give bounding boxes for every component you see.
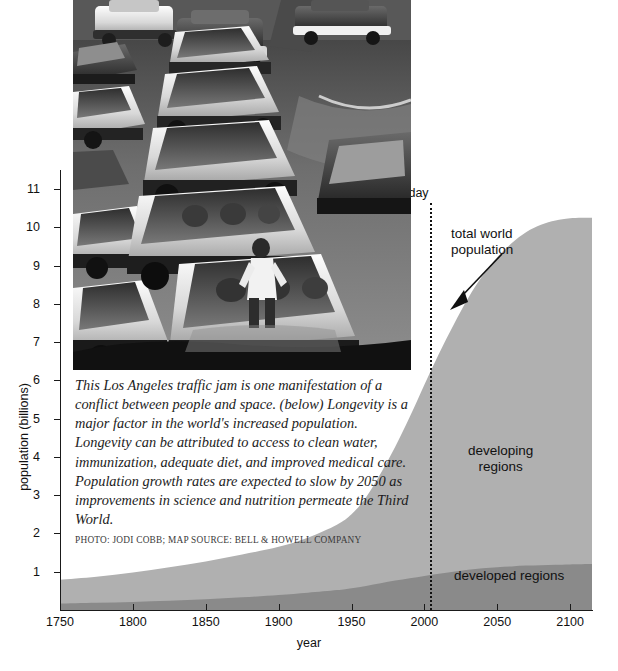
y-tick-label-1: 1 <box>0 566 40 579</box>
y-tick-6 <box>54 380 61 381</box>
x-tick-label-2000: 2000 <box>394 616 454 629</box>
x-tick-1850 <box>206 604 207 611</box>
y-tick-7 <box>54 342 61 343</box>
x-axis-line <box>60 610 593 611</box>
y-tick-11 <box>54 189 61 190</box>
x-tick-1950 <box>352 604 353 611</box>
y-tick-label-9: 9 <box>0 260 40 273</box>
traffic-jam-photo <box>73 0 411 370</box>
x-tick-1800 <box>133 604 134 611</box>
y-axis-title: population (billions) <box>17 367 31 507</box>
y-tick-9 <box>54 266 61 267</box>
y-tick-label-2: 2 <box>0 527 40 540</box>
y-tick-1 <box>54 572 61 573</box>
x-tick-2100 <box>570 604 571 611</box>
x-tick-1750 <box>60 604 61 611</box>
x-tick-1900 <box>279 604 280 611</box>
y-tick-5 <box>54 419 61 420</box>
y-tick-label-11: 11 <box>0 183 40 196</box>
x-tick-label-2100: 2100 <box>540 616 600 629</box>
y-tick-label-10: 10 <box>0 221 40 234</box>
photo-caption-text: This Los Angeles traffic jam is one mani… <box>75 376 411 529</box>
x-tick-label-1800: 1800 <box>103 616 163 629</box>
developed-regions-label: developed regions <box>454 568 564 583</box>
photo-caption-block: This Los Angeles traffic jam is one mani… <box>75 376 411 545</box>
x-tick-label-1850: 1850 <box>176 616 236 629</box>
x-tick-label-1950: 1950 <box>322 616 382 629</box>
x-tick-2050 <box>497 604 498 611</box>
y-tick-8 <box>54 304 61 305</box>
y-tick-label-8: 8 <box>0 298 40 311</box>
today-marker-line <box>430 203 432 610</box>
figure-root: 1234567891011 17501800185019001950200020… <box>0 0 618 671</box>
y-tick-4 <box>54 457 61 458</box>
x-tick-label-1750: 1750 <box>30 616 90 629</box>
y-tick-10 <box>54 227 61 228</box>
developing-regions-label-line1: developing <box>468 443 533 459</box>
y-tick-3 <box>54 495 61 496</box>
developing-regions-label: developing regions <box>468 443 533 474</box>
traffic-jam-photo-image <box>73 0 411 370</box>
y-tick-2 <box>54 533 61 534</box>
total-world-population-label-line1: total world <box>451 226 513 242</box>
x-tick-label-1900: 1900 <box>249 616 309 629</box>
total-world-population-arrow-icon <box>440 252 510 312</box>
y-tick-label-7: 7 <box>0 336 40 349</box>
developing-regions-label-line2: regions <box>468 459 533 475</box>
x-axis-title: year <box>0 636 618 650</box>
photo-credit-line: PHOTO: JODI COBB; MAP SOURCE: BELL & HOW… <box>75 535 411 545</box>
y-axis-line <box>60 170 61 611</box>
x-tick-label-2050: 2050 <box>467 616 527 629</box>
x-tick-2000 <box>424 604 425 611</box>
